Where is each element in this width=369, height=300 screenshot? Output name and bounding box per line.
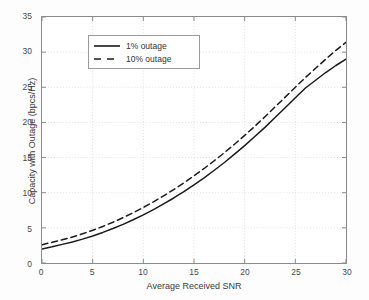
y-tick-15: 15 [23,153,36,163]
x-tick-5: 5 [90,267,95,277]
plot-area: 1% outage 10% outage [41,16,347,264]
x-tick-10: 10 [138,267,147,277]
x-tick-15: 15 [189,267,198,277]
x-tick-0: 0 [39,267,44,277]
y-axis-tick-labels: 05101520253035 [0,16,36,264]
x-tick-20: 20 [240,267,249,277]
y-tick-30: 30 [23,46,36,56]
y-tick-20: 20 [23,117,36,127]
y-tick-25: 25 [23,82,36,92]
legend-entry-1: 10% outage [93,52,195,65]
x-tick-30: 30 [342,267,351,277]
x-tick-25: 25 [291,267,300,277]
x-axis-title: Average Received SNR [41,281,347,291]
legend-label-0: 1% outage [126,41,167,51]
y-tick-0: 0 [27,259,36,269]
figure-canvas: Capacity with Outage (bpcs/Hz) 051015202… [0,0,369,300]
y-tick-10: 10 [23,188,36,198]
x-axis-tick-labels: 051015202530 [41,267,347,281]
legend-entry-0: 1% outage [93,39,195,52]
legend-sample-dashed-line-icon [93,54,121,64]
legend-label-1: 10% outage [126,54,171,64]
y-tick-5: 5 [27,224,36,234]
legend-sample-solid-line-icon [93,41,121,51]
legend-box: 1% outage 10% outage [88,35,200,69]
y-tick-35: 35 [23,11,36,21]
